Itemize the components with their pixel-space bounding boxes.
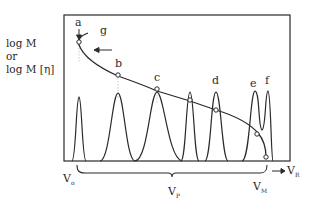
label-vp-main: V bbox=[168, 185, 176, 198]
elution-peaks bbox=[72, 91, 273, 161]
sec-calibration-diagram: log M or log M [η] a b c d e f g Vo VP V… bbox=[0, 0, 311, 209]
y-axis-label-line-1: log M bbox=[6, 37, 54, 50]
x-axis-label: VR bbox=[287, 165, 299, 181]
peak-5 bbox=[205, 92, 228, 161]
label-c: c bbox=[154, 72, 160, 84]
point-c2 bbox=[188, 98, 192, 102]
y-axis-label: log M or log M [η] bbox=[6, 37, 54, 76]
curve-points bbox=[77, 40, 268, 159]
label-a: a bbox=[75, 17, 82, 29]
point-b bbox=[116, 73, 120, 77]
point-e bbox=[255, 132, 259, 136]
label-vp-sub: P bbox=[176, 192, 180, 199]
peak-3 bbox=[135, 92, 182, 161]
vp-bracket bbox=[77, 165, 267, 177]
label-vm-main: V bbox=[253, 180, 261, 193]
arrow-g-icon bbox=[94, 48, 112, 53]
peak-6 bbox=[242, 91, 273, 161]
vr-arrow-icon bbox=[272, 169, 285, 174]
label-vm-sub: M bbox=[261, 187, 267, 194]
point-d bbox=[214, 108, 218, 112]
label-e: e bbox=[250, 78, 257, 90]
label-d: d bbox=[212, 75, 219, 87]
x-axis-label-main: V bbox=[287, 164, 295, 177]
label-vp: VP bbox=[168, 186, 180, 202]
x-axis-label-sub: R bbox=[295, 171, 300, 178]
label-v0-sub: o bbox=[71, 179, 75, 186]
peak-1 bbox=[72, 97, 86, 161]
label-v0: Vo bbox=[63, 173, 75, 189]
calibration-curve bbox=[78, 33, 266, 157]
peak-2 bbox=[100, 93, 135, 161]
label-vm: VM bbox=[253, 181, 267, 197]
diagram-canvas bbox=[0, 0, 311, 209]
label-f: f bbox=[265, 75, 269, 87]
point-c bbox=[155, 87, 159, 91]
y-axis-label-line-2: or bbox=[6, 50, 54, 63]
label-v0-main: V bbox=[63, 172, 71, 185]
point-f bbox=[264, 155, 268, 159]
label-b: b bbox=[115, 58, 122, 70]
y-axis-label-line-3: log M [η] bbox=[6, 63, 54, 76]
label-g: g bbox=[100, 25, 107, 37]
